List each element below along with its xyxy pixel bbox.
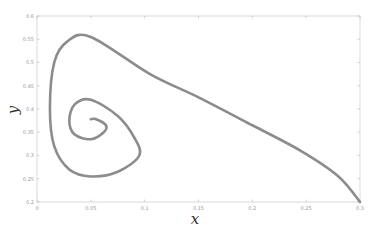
x-axis-label: x bbox=[191, 210, 200, 228]
x-axis-ticks: 00.050.10.150.20.250.3 bbox=[35, 16, 364, 211]
x-tick-label: 0.25 bbox=[301, 205, 312, 211]
y-tick-label: 0.3 bbox=[26, 152, 34, 158]
phase-plot: 00.050.10.150.20.250.3 0.20.250.30.350.4… bbox=[0, 0, 378, 236]
x-tick-label: 0 bbox=[35, 205, 38, 211]
y-tick-label: 0.55 bbox=[23, 36, 34, 42]
x-tick-label: 0.2 bbox=[248, 205, 256, 211]
y-tick-label: 0.5 bbox=[26, 59, 34, 65]
plot-frame bbox=[37, 16, 360, 202]
x-tick-label: 0.05 bbox=[85, 205, 96, 211]
y-axis-ticks: 0.20.250.30.350.40.450.50.550.6 bbox=[23, 13, 360, 205]
y-tick-label: 0.35 bbox=[23, 129, 34, 135]
x-tick-label: 0.1 bbox=[141, 205, 149, 211]
y-tick-label: 0.4 bbox=[26, 106, 34, 112]
y-axis-label: y bbox=[4, 105, 22, 115]
x-tick-label: 0.3 bbox=[356, 205, 364, 211]
y-tick-label: 0.25 bbox=[23, 176, 34, 182]
y-tick-label: 0.45 bbox=[23, 83, 34, 89]
trajectory-curve bbox=[50, 35, 360, 202]
y-tick-label: 0.6 bbox=[26, 13, 34, 19]
y-tick-label: 0.2 bbox=[26, 199, 34, 205]
